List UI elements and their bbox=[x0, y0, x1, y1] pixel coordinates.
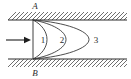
channel-flow-diagram: A B 1 2 3 bbox=[0, 0, 131, 79]
inlet-flow-arrow bbox=[6, 37, 31, 43]
top-wall-label: A bbox=[31, 1, 38, 11]
arrow-head bbox=[24, 37, 31, 43]
bottom-wall-label: B bbox=[32, 68, 38, 78]
zone-label-3: 3 bbox=[94, 35, 99, 45]
top-wall-group bbox=[8, 12, 127, 20]
bottom-wall-hatching bbox=[8, 59, 127, 67]
zone-label-2: 2 bbox=[60, 35, 65, 45]
zone-label-1: 1 bbox=[41, 35, 46, 45]
figure-container: A B 1 2 3 bbox=[0, 0, 131, 79]
top-wall-hatching bbox=[8, 12, 127, 20]
bottom-wall-group bbox=[8, 59, 127, 67]
